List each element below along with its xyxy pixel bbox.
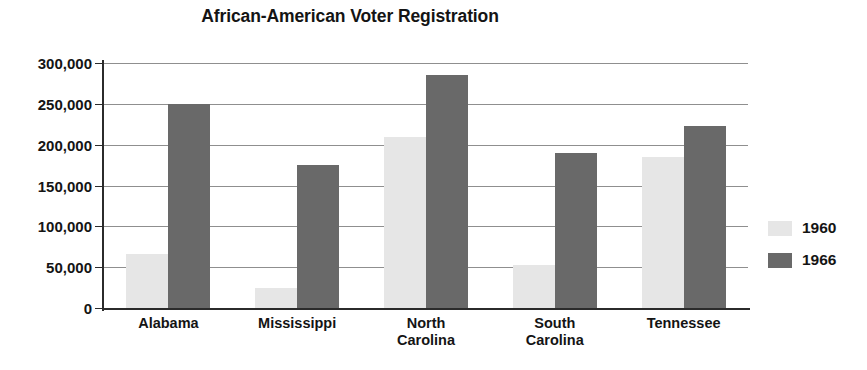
y-axis-tick-label: 0	[6, 300, 92, 317]
legend-item-1966[interactable]: 1966	[768, 244, 863, 276]
bar-north-carolina-1960[interactable]	[384, 137, 426, 309]
y-axis-tick-label: 50,000	[6, 259, 92, 276]
legend-swatch-1966	[768, 253, 792, 268]
y-axis-tick-label: 250,000	[6, 95, 92, 112]
y-axis-tick-mark	[95, 267, 103, 268]
bar-tennessee-1966[interactable]	[684, 126, 726, 308]
bar-alabama-1966[interactable]	[168, 104, 210, 308]
y-axis-tick-mark	[95, 186, 103, 187]
bar-group	[255, 63, 339, 308]
bar-tennessee-1960[interactable]	[642, 157, 684, 308]
x-axis-label-south-carolina: SouthCarolina	[485, 315, 625, 349]
bar-chart: African-American Voter Registration 050,…	[0, 0, 867, 370]
bar-alabama-1960[interactable]	[126, 254, 168, 308]
x-axis-line	[102, 308, 750, 310]
y-axis-tick-mark	[95, 308, 103, 309]
chart-legend: 19601966	[768, 212, 863, 276]
y-axis-tick-label: 150,000	[6, 177, 92, 194]
bar-south-carolina-1966[interactable]	[555, 153, 597, 308]
legend-swatch-1960	[768, 221, 792, 236]
legend-label-1966: 1966	[802, 251, 836, 269]
y-axis-tick-mark	[95, 104, 103, 105]
bar-north-carolina-1966[interactable]	[426, 75, 468, 308]
y-axis-tick-mark	[95, 226, 103, 227]
x-axis-label-tennessee: Tennessee	[614, 315, 754, 332]
legend-item-1960[interactable]: 1960	[768, 212, 863, 244]
bar-group	[642, 63, 726, 308]
bar-mississippi-1966[interactable]	[297, 165, 339, 308]
y-axis-tick-label: 200,000	[6, 136, 92, 153]
chart-title: African-American Voter Registration	[0, 6, 700, 27]
y-axis-tick-mark	[95, 63, 103, 64]
x-axis-label-alabama: Alabama	[98, 315, 238, 332]
y-axis-tick-label: 100,000	[6, 218, 92, 235]
bar-mississippi-1960[interactable]	[255, 288, 297, 308]
legend-label-1960: 1960	[802, 219, 836, 237]
x-axis-label-north-carolina: NorthCarolina	[356, 315, 496, 349]
bar-south-carolina-1960[interactable]	[513, 265, 555, 308]
bar-group	[513, 63, 597, 308]
bar-group	[384, 63, 468, 308]
x-axis-label-mississippi: Mississippi	[227, 315, 367, 332]
bar-group	[126, 63, 210, 308]
y-axis-tick-labels: 050,000100,000150,000200,000250,000300,0…	[0, 0, 92, 370]
y-axis-tick-mark	[95, 145, 103, 146]
plot-area	[104, 63, 748, 308]
y-axis-tick-label: 300,000	[6, 55, 92, 72]
